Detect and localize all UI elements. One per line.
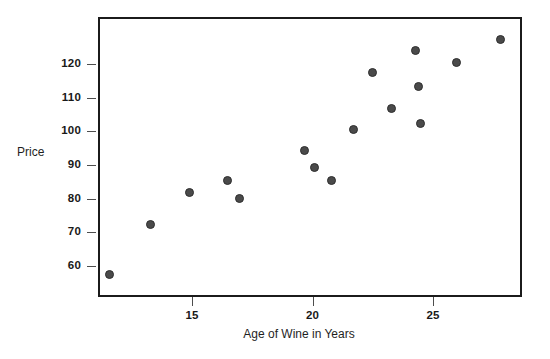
x-axis-title: Age of Wine in Years bbox=[0, 327, 550, 341]
x-tick-mark bbox=[313, 297, 314, 306]
y-tick-mark bbox=[87, 199, 96, 200]
data-point bbox=[310, 163, 319, 172]
data-point bbox=[223, 176, 232, 185]
y-tick-label: 90 bbox=[47, 158, 81, 170]
data-point bbox=[235, 194, 244, 203]
data-point bbox=[146, 220, 155, 229]
data-point bbox=[416, 119, 425, 128]
data-point bbox=[414, 82, 423, 91]
data-point bbox=[411, 46, 420, 55]
x-tick-mark bbox=[192, 297, 193, 306]
y-tick-mark bbox=[87, 64, 96, 65]
y-tick-mark bbox=[87, 266, 96, 267]
x-tick-label: 25 bbox=[418, 309, 448, 321]
data-point bbox=[496, 35, 505, 44]
x-tick-mark bbox=[433, 297, 434, 306]
data-point bbox=[300, 146, 309, 155]
y-tick-label: 70 bbox=[47, 225, 81, 237]
scatter-chart: Price 60708090100110120 152025 Age of Wi… bbox=[0, 0, 550, 359]
data-point bbox=[387, 104, 396, 113]
y-tick-label: 100 bbox=[47, 124, 81, 136]
data-point bbox=[349, 125, 358, 134]
y-axis-title: Price bbox=[17, 145, 44, 159]
y-tick-label: 60 bbox=[47, 259, 81, 271]
y-tick-label: 80 bbox=[47, 192, 81, 204]
data-point bbox=[185, 188, 194, 197]
x-tick-label: 15 bbox=[177, 309, 207, 321]
y-tick-mark bbox=[87, 232, 96, 233]
y-tick-mark bbox=[87, 98, 96, 99]
y-tick-label: 110 bbox=[47, 91, 81, 103]
data-point bbox=[368, 68, 377, 77]
y-tick-mark bbox=[87, 165, 96, 166]
data-point bbox=[327, 176, 336, 185]
x-tick-label: 20 bbox=[298, 309, 328, 321]
x-axis-title-text: Age of Wine in Years bbox=[195, 327, 354, 341]
y-tick-mark bbox=[87, 131, 96, 132]
data-point bbox=[105, 270, 114, 279]
plot-area bbox=[98, 17, 522, 297]
data-point bbox=[452, 58, 461, 67]
y-tick-label: 120 bbox=[47, 57, 81, 69]
